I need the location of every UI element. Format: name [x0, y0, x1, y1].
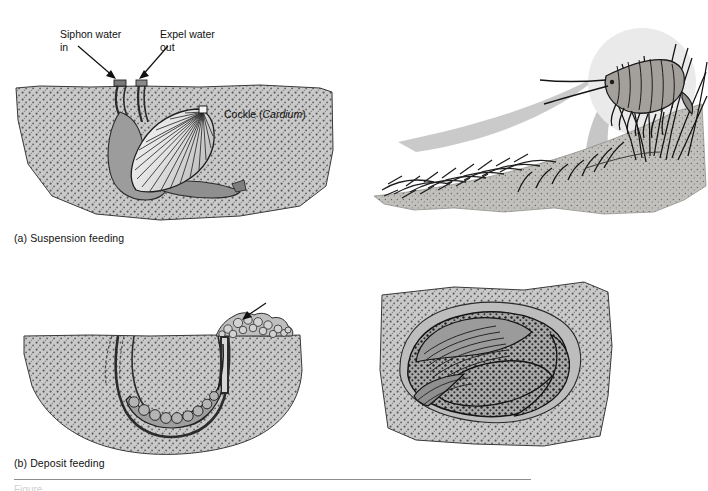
- panel-deposit-feeding-amphipod: Amphipod (Orchestoidea) Seaweed piledwel…: [354, 0, 708, 250]
- amphipod-beach-illustration: [354, 0, 708, 250]
- footer-caption-text: Figure: [14, 484, 42, 491]
- label-expel-water-out: Expel waterout: [160, 28, 215, 53]
- panel-deposit-feeding-lugworm: Lugworm (Arenicola) Processedsand (b) De…: [0, 250, 354, 475]
- label-cockle-species: Cockle (Cardium): [224, 108, 306, 121]
- caption-panel-b: (b) Deposit feeding: [14, 457, 105, 469]
- footer-divider-rule: [14, 479, 531, 480]
- sand-star-organism: [408, 312, 570, 417]
- caption-panel-a: (a) Suspension feeding: [14, 232, 124, 244]
- label-siphon-water-in: Siphon waterin: [60, 28, 121, 53]
- figure-root: Siphon waterin Expel waterout Cockle (Ca…: [0, 0, 708, 491]
- lugworm-burrow-illustration: [0, 250, 354, 475]
- panel-carnivorous-feeding: Sand star(Astropecten) (d) Carnivorous f…: [354, 250, 708, 475]
- panel-suspension-feeding: Siphon waterin Expel waterout Cockle (Ca…: [0, 0, 354, 250]
- processed-sand-mound: [216, 313, 293, 338]
- beach-sand: [374, 104, 706, 214]
- sand-star-illustration: [354, 250, 708, 475]
